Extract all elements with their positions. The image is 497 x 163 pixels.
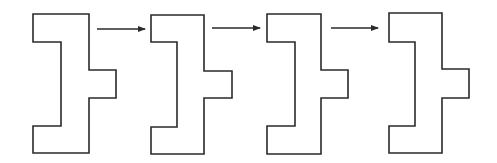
diagram-canvas — [0, 0, 497, 163]
bracket-shape-2 — [151, 15, 232, 154]
arrows-group — [97, 28, 378, 29]
shapes-group — [33, 13, 469, 154]
bracket-shape-3 — [267, 14, 348, 154]
diagram-svg — [0, 0, 497, 163]
bracket-shape-1 — [33, 14, 116, 153]
bracket-shape-4 — [389, 13, 469, 153]
